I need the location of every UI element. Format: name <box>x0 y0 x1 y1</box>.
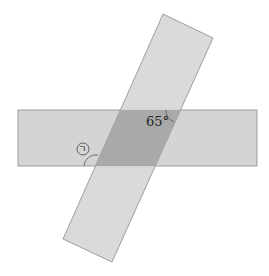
unknown-angle-label: ㄱ <box>78 142 86 155</box>
angle-65-label: 65° <box>146 114 169 129</box>
diagram-canvas <box>0 0 269 276</box>
